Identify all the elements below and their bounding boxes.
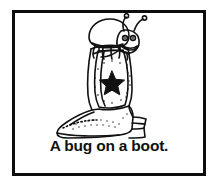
- bug-pupil-left: [124, 37, 126, 39]
- boot-star-emblem: [99, 71, 124, 95]
- illustration-bug-on-a-boot: [15, 13, 203, 139]
- boot-heel-seam: [132, 123, 145, 124]
- boot-shaft-seam: [101, 52, 105, 106]
- star-shape: [99, 71, 124, 95]
- boot-group: [57, 45, 146, 138]
- caption-text: A bug on a boot.: [15, 137, 203, 155]
- boot-foot: [57, 106, 133, 138]
- bug-antenna-right-tip: [142, 16, 146, 20]
- bug-smile-inner: [123, 46, 137, 48]
- boot-sole-line: [57, 133, 119, 136]
- bug-antenna-left-tip: [124, 14, 128, 18]
- flashcard: A bug on a boot.: [12, 10, 206, 176]
- boot-shaft-left-edge: [88, 49, 92, 110]
- bug-antenna-right-stalk: [134, 19, 143, 31]
- line-art-svg: [15, 13, 203, 139]
- bug-pupil-right: [132, 37, 134, 39]
